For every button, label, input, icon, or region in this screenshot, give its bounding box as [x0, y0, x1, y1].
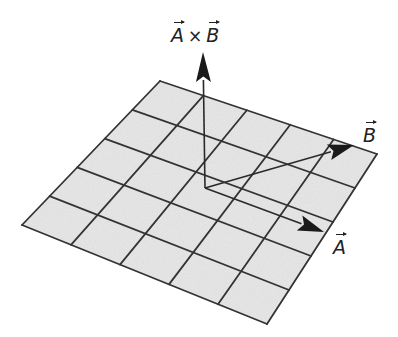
- cross-left-symbol: A: [171, 26, 184, 45]
- cross-product-diagram: [0, 0, 398, 337]
- arrowhead-icon: [196, 52, 211, 82]
- cross-operator: ×: [188, 26, 202, 46]
- plane-surface: [22, 81, 377, 324]
- cross-right-symbol: B: [206, 26, 219, 45]
- vector-b-symbol: B: [363, 126, 376, 145]
- vector-a-symbol: A: [333, 238, 346, 257]
- plane: [22, 81, 377, 324]
- cross-product-label: A×B: [171, 26, 219, 45]
- vector-b-label: B: [363, 126, 376, 145]
- vector-a-label: A: [333, 238, 346, 257]
